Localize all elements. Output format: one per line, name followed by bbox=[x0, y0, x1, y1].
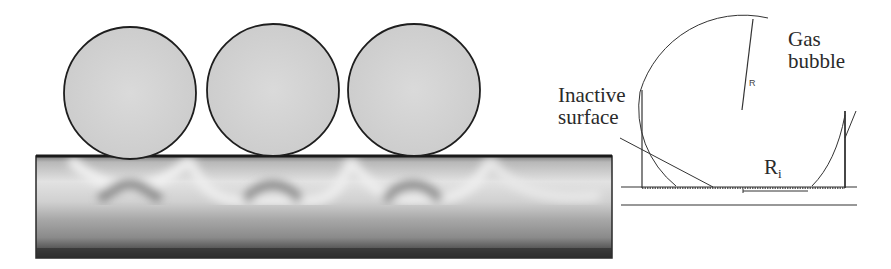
inner-radius-label: Ri bbox=[764, 156, 782, 181]
label-line: bubble bbox=[788, 50, 845, 72]
label-line: Gas bbox=[788, 28, 845, 50]
right-tick bbox=[845, 111, 856, 138]
label-line: surface bbox=[558, 106, 626, 128]
inactive-leader-line bbox=[620, 138, 713, 187]
ri-main: R bbox=[764, 155, 778, 179]
inactive-surface-label: Inactive surface bbox=[558, 84, 626, 128]
bubble-outline-right bbox=[812, 115, 845, 186]
gas-bubble-label: Gas bubble bbox=[788, 28, 845, 72]
ri-subscript: i bbox=[778, 166, 782, 181]
simulation-panel bbox=[36, 24, 612, 258]
gas-bubble-1 bbox=[64, 27, 196, 159]
bubble-outline-left bbox=[639, 15, 768, 186]
radius-line bbox=[742, 19, 753, 110]
gas-bubble-3 bbox=[348, 24, 480, 156]
figure-canvas bbox=[0, 0, 891, 269]
label-line: Inactive bbox=[558, 84, 626, 106]
concentration-field bbox=[36, 156, 612, 258]
gas-bubble-2 bbox=[207, 24, 339, 156]
radius-label: R bbox=[749, 79, 756, 88]
